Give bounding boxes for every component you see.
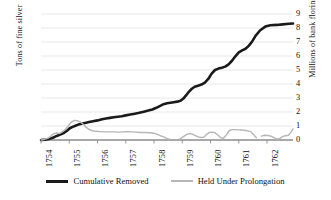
legend-label: Cumulative Removed bbox=[73, 176, 148, 186]
legend-item-cumulative-removed: Cumulative Removed bbox=[46, 176, 148, 186]
series-line bbox=[180, 130, 240, 140]
data-series-layer bbox=[41, 24, 293, 140]
series-line bbox=[261, 129, 293, 139]
x-tick-marks bbox=[41, 140, 267, 144]
chart-legend: Cumulative Removed Held Under Prolongati… bbox=[0, 176, 331, 186]
legend-item-held-under-prolongation: Held Under Prolongation bbox=[171, 176, 285, 186]
legend-swatch-line-icon bbox=[171, 180, 193, 182]
series-line bbox=[41, 120, 170, 140]
series-line bbox=[240, 130, 256, 138]
legend-label: Held Under Prolongation bbox=[198, 176, 285, 186]
plot-area bbox=[0, 0, 331, 200]
series-line bbox=[41, 24, 293, 140]
legend-swatch-line-icon bbox=[46, 180, 68, 183]
chart-figure: Tons of fine silver Millions of bank flo… bbox=[0, 0, 331, 200]
